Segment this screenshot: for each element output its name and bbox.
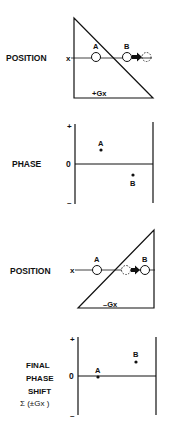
minus-label: – [70,411,75,420]
row-label-position: POSITION [6,53,47,63]
spin-a-label: A [93,42,99,51]
phase-point-a [99,148,102,151]
spin-a-label: A [94,255,100,264]
position-panel-positive-gradient: POSITION x A B +Gx [6,18,153,98]
spin-b-circle [141,266,150,275]
row-label-line-4: Σ (±Gx ) [20,399,50,408]
phase-point-a [96,375,99,378]
row-label-line-3: SHIFT [28,387,51,396]
minus-label: – [67,198,72,207]
phase-point-a-label: A [98,139,104,148]
spin-a-circle [92,53,101,62]
position-panel-negative-gradient: POSITION x A B –Gx [10,230,155,309]
zero-label: 0 [66,159,71,169]
row-label-line-2: PHASE [26,374,54,383]
spin-b-label: B [142,255,148,264]
phase-panel-1: PHASE + 0 – A B [12,122,153,207]
phase-point-b [134,360,137,363]
row-label-position: POSITION [10,266,51,276]
plus-label: + [67,122,72,131]
row-label-line-1: FINAL [26,361,50,370]
phase-point-b-label: B [133,350,139,359]
spin-a-circle [93,266,102,275]
phase-point-b-label: B [130,179,136,188]
final-phase-panel: FINAL PHASE SHIFT Σ (±Gx ) + 0 – A B [20,335,156,420]
spin-b-label: B [124,42,130,51]
dashed-spin-circle [122,266,131,275]
x-axis-label: x [70,266,75,275]
zero-label: 0 [69,371,74,381]
spin-b-circle [123,53,132,62]
phase-point-a-label: A [95,366,101,375]
gradient-label: +Gx [92,89,107,98]
arrow-right-icon [131,266,140,275]
x-axis-label: x [66,54,71,63]
gradient-label: –Gx [103,300,118,309]
plus-label: + [70,335,75,344]
arrow-right-icon [132,53,142,62]
row-label-phase: PHASE [12,159,42,169]
gradient-phase-diagram: POSITION x A B +Gx PHASE + 0 – A B POSIT… [0,0,171,427]
dashed-spin-circle [142,53,151,62]
phase-point-b [131,173,134,176]
